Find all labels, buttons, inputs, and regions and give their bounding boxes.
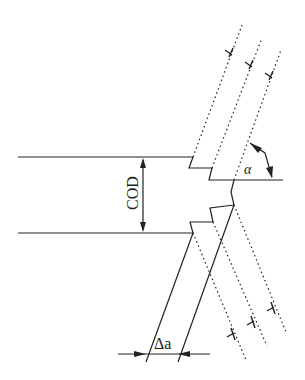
slip-line-2 xyxy=(178,205,234,362)
cod-label: COD xyxy=(124,176,141,210)
dislocation-icons-lower xyxy=(227,302,275,340)
arrowheads xyxy=(134,143,273,357)
crack-tip xyxy=(231,180,234,205)
upper-slip-bands xyxy=(193,25,281,180)
dislocation-icons-upper xyxy=(225,48,273,80)
alpha-label: α xyxy=(244,162,252,177)
delta-a-label: Δa xyxy=(154,335,171,352)
crack-diagram: COD Δa α xyxy=(0,0,305,380)
